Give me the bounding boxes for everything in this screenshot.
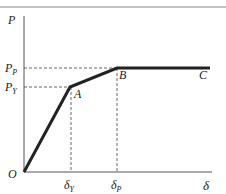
- origin-label: O: [8, 167, 17, 181]
- py-label: PY: [4, 80, 18, 96]
- x-axis-label: δ: [203, 178, 210, 193]
- point-a-label: A: [73, 87, 82, 101]
- point-c-label: C: [199, 68, 208, 82]
- y-axis-label: P: [7, 13, 16, 27]
- point-b-label: B: [119, 68, 127, 82]
- delta-y-label: δY: [64, 178, 76, 194]
- load-displacement-diagram: P δ O PP PY δY δP A B C: [0, 0, 226, 194]
- pp-label: PP: [4, 61, 17, 77]
- delta-p-label: δP: [111, 178, 122, 194]
